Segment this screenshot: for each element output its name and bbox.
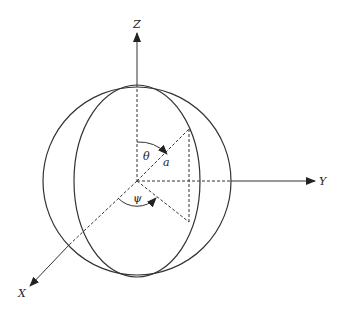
sphere-diagram: Z Y X θ a ψ [0, 0, 344, 315]
x-axis [30, 245, 69, 286]
radius-label: a [163, 156, 170, 169]
theta-label: θ [143, 150, 150, 163]
z-axis-label: Z [132, 18, 141, 31]
projection-xy [137, 181, 189, 222]
x-axis-dashed [69, 181, 137, 245]
theta-arc [137, 142, 167, 154]
x-axis-label: X [17, 287, 27, 300]
psi-label: ψ [133, 192, 142, 205]
y-axis-label: Y [319, 175, 328, 188]
